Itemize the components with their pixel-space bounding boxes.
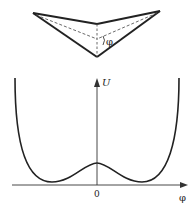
angle-arc <box>103 36 105 45</box>
angle-label: φ <box>106 36 113 47</box>
y-axis-arrow-icon <box>94 78 100 87</box>
y-axis-label: U <box>102 77 111 88</box>
x-axis-label: φ <box>179 192 186 203</box>
origin-label: 0 <box>94 189 100 199</box>
potential-plot: U 0 φ <box>12 77 188 203</box>
double-well-diagram: φ U 0 φ <box>0 0 196 209</box>
x-axis-arrow-icon <box>180 182 188 188</box>
molecule-figure: φ <box>33 11 160 57</box>
